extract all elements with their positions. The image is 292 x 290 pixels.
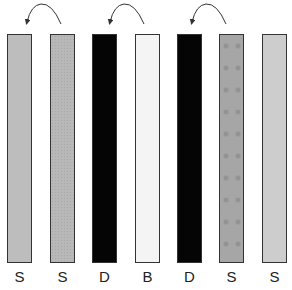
bar-4 xyxy=(135,34,160,263)
swap-arrows xyxy=(0,0,292,34)
bar-7 xyxy=(262,34,287,263)
bar-2 xyxy=(50,34,75,263)
swap-arrow-icon xyxy=(110,4,144,24)
bar-label: S xyxy=(50,268,75,286)
bar-5 xyxy=(177,34,202,263)
bar-label: D xyxy=(177,268,202,286)
bar-label: S xyxy=(219,268,244,286)
swap-arrow-icon xyxy=(192,4,226,24)
bar-6 xyxy=(219,34,244,263)
bar-1 xyxy=(7,34,32,263)
bar-label: S xyxy=(7,268,32,286)
bar-3 xyxy=(92,34,117,263)
bar-label: D xyxy=(92,268,117,286)
swap-arrow-icon xyxy=(27,4,61,24)
bar-label: B xyxy=(135,268,160,286)
bar-label: S xyxy=(262,268,287,286)
bar-swap-diagram: S S D B D S S xyxy=(0,0,292,290)
